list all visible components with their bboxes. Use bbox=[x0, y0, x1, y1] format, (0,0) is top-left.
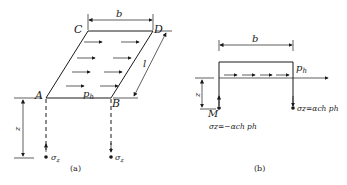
stress-label-left-b: σz=−αch ph bbox=[209, 122, 257, 131]
caption-b: (b) bbox=[254, 164, 265, 173]
load-label-a: ph bbox=[83, 88, 94, 101]
stress-label-right-b: σz=αch ph bbox=[297, 104, 339, 113]
point-left-a bbox=[44, 155, 48, 159]
caption-a: (a) bbox=[70, 164, 81, 173]
point-right-a bbox=[109, 155, 113, 159]
point-right-b bbox=[291, 106, 295, 110]
dim-label-l: l bbox=[143, 58, 146, 69]
stress-label-right-a: σz bbox=[115, 153, 124, 163]
diagram-canvas: C D A B b l z ph σz σz (a) bbox=[0, 0, 347, 185]
figure-a bbox=[14, 14, 172, 159]
dim-label-z-b: z bbox=[193, 92, 202, 98]
corner-label-d: D bbox=[153, 23, 163, 36]
dim-label-z-a: z bbox=[13, 126, 22, 132]
dim-label-b-a: b bbox=[116, 8, 122, 19]
dim-label-b-b: b bbox=[252, 33, 258, 44]
stress-label-left-a: σz bbox=[51, 153, 60, 163]
figure-b bbox=[195, 40, 328, 110]
corner-label-c: C bbox=[74, 23, 83, 36]
loaded-strip-parallelogram bbox=[46, 31, 153, 98]
corner-label-b: B bbox=[111, 97, 120, 110]
load-label-b: ph bbox=[296, 62, 307, 75]
point-label-m: M bbox=[207, 108, 219, 119]
corner-label-a: A bbox=[34, 89, 43, 102]
